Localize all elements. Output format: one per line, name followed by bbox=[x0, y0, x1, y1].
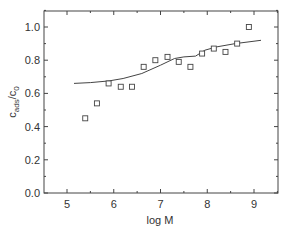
square-marker bbox=[176, 59, 181, 64]
square-marker bbox=[211, 46, 216, 51]
y-tick-label: 0.0 bbox=[25, 187, 40, 199]
square-marker bbox=[165, 54, 170, 59]
x-tick-label: 8 bbox=[204, 198, 210, 210]
square-marker bbox=[153, 58, 158, 63]
model-line bbox=[74, 40, 261, 83]
square-marker bbox=[83, 116, 88, 121]
y-axis-label: cads/c0 bbox=[6, 86, 21, 118]
square-marker bbox=[118, 84, 123, 89]
plot-border bbox=[44, 11, 278, 193]
x-tick-label: 6 bbox=[111, 198, 117, 210]
x-tick-label: 9 bbox=[251, 198, 257, 210]
y-tick-label: 1.0 bbox=[25, 21, 40, 33]
plot-frame bbox=[44, 11, 278, 193]
square-marker bbox=[141, 64, 146, 69]
square-marker bbox=[246, 25, 251, 30]
square-marker bbox=[223, 49, 228, 54]
y-label-sub2: 0 bbox=[12, 86, 21, 91]
x-tick-label: 7 bbox=[157, 198, 163, 210]
square-marker bbox=[94, 101, 99, 106]
y-label-sub1: ads bbox=[12, 99, 21, 112]
square-marker bbox=[235, 41, 240, 46]
y-axis-ticks: 0.00.20.40.60.81.0 bbox=[25, 10, 278, 199]
x-axis-ticks: 56789 bbox=[64, 11, 277, 210]
y-tick-label: 0.8 bbox=[25, 54, 40, 66]
x-axis-label: log M bbox=[147, 214, 174, 226]
y-tick-label: 0.4 bbox=[25, 121, 40, 133]
square-marker bbox=[106, 81, 111, 86]
model-curve bbox=[74, 40, 261, 83]
x-tick-label: 5 bbox=[64, 198, 70, 210]
y-tick-label: 0.2 bbox=[25, 154, 40, 166]
chart: 56789 0.00.20.40.60.81.0 log M cads/c0 bbox=[0, 0, 286, 229]
data-markers bbox=[83, 25, 252, 121]
square-marker bbox=[129, 84, 134, 89]
y-tick-label: 0.6 bbox=[25, 87, 40, 99]
square-marker bbox=[200, 51, 205, 56]
square-marker bbox=[188, 64, 193, 69]
